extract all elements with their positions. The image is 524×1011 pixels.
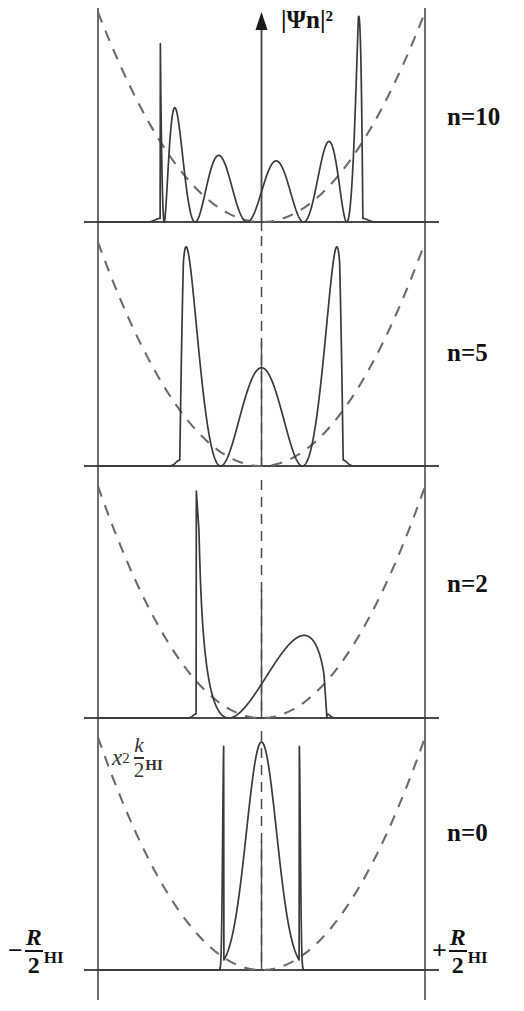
y-axis-arrowhead [256, 12, 268, 30]
y-axis-label: |Ψn|² [281, 6, 333, 34]
right-label-numerator: R [449, 925, 467, 949]
left-label-numerator: R [25, 925, 43, 949]
panel-label-n0: n=0 [447, 819, 488, 847]
x-axis-left-label: − R 2 HI [8, 925, 64, 977]
potential-denominator: 2 [134, 760, 145, 781]
right-label-denominator: 2 [451, 953, 465, 977]
potential-fraction: k 2 [134, 735, 145, 781]
potential-exponent: 2 [122, 750, 130, 767]
left-label-sign: − [8, 936, 25, 966]
left-label-denominator: 2 [27, 953, 41, 977]
potential-annotation: x2 k 2 HI [112, 735, 163, 781]
potential-k-subscript: HI [144, 757, 163, 781]
plot-svg [0, 0, 524, 1011]
panel-label-n2: n=2 [447, 570, 488, 598]
panel-label-n5: n=5 [447, 339, 488, 367]
potential-k-symbol: k [134, 735, 143, 756]
right-label-sign: + [432, 936, 449, 966]
potential-x-symbol: x [112, 745, 122, 771]
panel-label-n10: n=10 [447, 103, 500, 131]
left-label-subscript: HI [43, 948, 64, 977]
right-label-fraction: R 2 [449, 925, 467, 977]
x-axis-right-label: + R 2 HI [432, 925, 488, 977]
right-label-subscript: HI [467, 948, 488, 977]
left-label-fraction: R 2 [25, 925, 43, 977]
wavefunction-figure: n=10 n=5 n=2 n=0 |Ψn|² − R 2 HI + R 2 HI… [0, 0, 524, 1011]
